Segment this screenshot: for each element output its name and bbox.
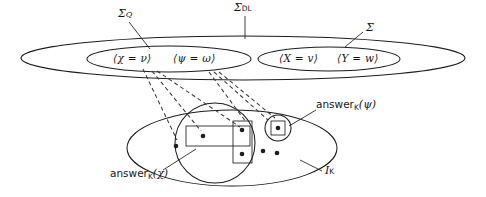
dot-in-vertical-rect-bottom xyxy=(240,152,245,157)
label-answer-k-psi: answerK(ψ) xyxy=(316,99,376,111)
label-answer-k-chi-name: answer xyxy=(110,167,148,179)
label-sigma-q-subscript: Q xyxy=(126,10,133,19)
proposition-psi-equals-omega: ⟨ψ = ω⟩ xyxy=(173,53,216,64)
dashed-line-psi-3 xyxy=(219,72,275,118)
label-answer-k-chi: answerK(χ) xyxy=(110,168,168,180)
label-sigma-glyph: Σ xyxy=(366,21,374,34)
label-sigma-dl-subscript: DL xyxy=(242,4,252,13)
label-sigma-dl: ΣDL xyxy=(234,2,252,13)
label-answer-k-chi-arg: (χ) xyxy=(153,167,168,180)
answer-chi-circle xyxy=(175,103,255,183)
leader-line-sigma-q xyxy=(129,22,150,49)
dashed-line-chi-1 xyxy=(143,69,177,140)
dot-in-vertical-rect-top xyxy=(240,128,245,133)
label-answer-k-psi-name: answer xyxy=(316,98,354,110)
diagram-vector-layer xyxy=(0,0,486,197)
proposition-chi-equals-nu: ⟨χ = ν⟩ xyxy=(113,53,152,64)
leader-line-i-k xyxy=(300,160,322,171)
dot-in-circle-left xyxy=(174,144,179,149)
label-sigma: Σ xyxy=(366,22,374,33)
diagram-canvas: ΣQ ΣDL Σ ⟨χ = ν⟩ ⟨ψ = ω⟩ ⟨X = v⟩ ⟨Y = w⟩… xyxy=(0,0,486,197)
dot-in-small-square xyxy=(276,126,281,131)
inner-ellipse-sigma-q xyxy=(87,46,251,72)
dot-in-horizontal-rect xyxy=(201,134,206,139)
dot-outside-a xyxy=(261,149,266,154)
label-i-k-subscript: K xyxy=(329,167,334,176)
label-i-k: IK xyxy=(325,165,334,176)
proposition-x-equals-v: ⟨X = v⟩ xyxy=(279,53,318,64)
label-sigma-dl-glyph: Σ xyxy=(234,1,242,14)
rect-vertical xyxy=(233,121,252,163)
label-sigma-q: ΣQ xyxy=(118,8,132,19)
label-answer-k-psi-arg: (ψ) xyxy=(359,98,376,111)
dot-outside-b xyxy=(275,151,280,156)
label-sigma-q-glyph: Σ xyxy=(118,7,126,20)
proposition-y-equals-w: ⟨Y = w⟩ xyxy=(337,53,379,64)
